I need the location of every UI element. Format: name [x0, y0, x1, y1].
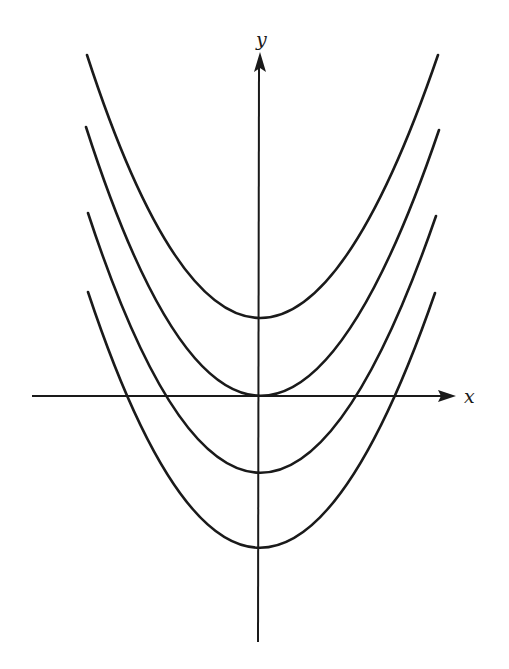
y-axis-label: y	[255, 28, 267, 50]
parabola-through-origin	[86, 127, 439, 396]
parabola-shift-down-2	[88, 292, 435, 548]
parabola-shift-down-1	[88, 213, 436, 473]
axes	[32, 52, 456, 642]
x-axis-label: x	[464, 385, 475, 407]
parabola-family-diagram: y x	[0, 0, 509, 669]
curves	[86, 55, 439, 548]
y-axis-arrow-icon	[254, 52, 266, 72]
parabola-shift-up	[87, 55, 438, 318]
y-axis	[258, 64, 259, 642]
